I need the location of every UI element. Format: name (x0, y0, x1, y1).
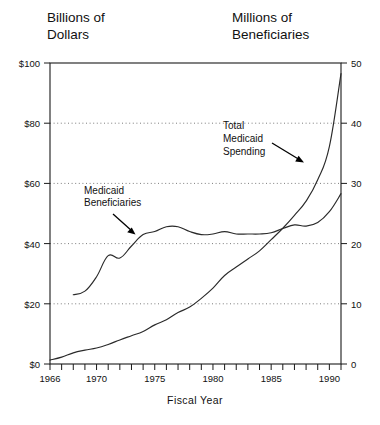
annotation-beneficiaries-line1: Medicaid (84, 185, 124, 196)
right-axis-title-line2: Beneficiaries (232, 27, 310, 42)
chart-canvas: Billions of Dollars Millions of Benefici… (0, 0, 380, 425)
x-label-1985: 1985 (261, 373, 282, 384)
annotation-medicaid-beneficiaries: Medicaid Beneficiaries (84, 185, 141, 235)
y-left-label-80: $80 (24, 118, 40, 129)
y-left-label-60: $60 (24, 178, 40, 189)
x-label-1990: 1990 (319, 373, 340, 384)
annotation-spending-line2: Medicaid (223, 133, 263, 144)
y-right-ticks (341, 63, 347, 364)
y-right-label-20: 20 (351, 239, 362, 250)
left-axis-title-line2: Dollars (47, 27, 89, 42)
x-axis-ticks (50, 364, 341, 370)
gridlines (50, 123, 341, 304)
y-left-label-40: $40 (24, 239, 40, 250)
y-left-label-20: $20 (24, 299, 40, 310)
y-right-label-10: 10 (351, 299, 362, 310)
y-right-label-50: 50 (351, 58, 362, 69)
annotation-beneficiaries-line2: Beneficiaries (84, 197, 141, 208)
x-label-1980: 1980 (202, 373, 223, 384)
series-line-total-medicaid-spending (50, 74, 341, 361)
right-axis-title-line1: Millions of (232, 10, 292, 25)
y-left-label-0: $0 (29, 359, 40, 370)
plot-frame (50, 63, 341, 364)
left-axis-title-line1: Billions of (47, 10, 105, 25)
x-axis-title: Fiscal Year (167, 394, 223, 406)
annotation-spending-line1: Total (223, 120, 244, 131)
y-left-label-100: $100 (19, 58, 40, 69)
medicaid-chart-figure: Billions of Dollars Millions of Benefici… (0, 0, 380, 425)
x-label-1970: 1970 (86, 373, 107, 384)
x-label-1966: 1966 (39, 373, 60, 384)
y-right-label-0: 0 (351, 359, 356, 370)
annotation-beneficiaries-arrow-line (113, 214, 132, 231)
annotation-spending-arrow-head (295, 156, 304, 163)
x-label-1975: 1975 (144, 373, 165, 384)
y-left-ticks (44, 63, 50, 364)
annotation-spending-line3: Spending (223, 146, 265, 157)
annotation-spending-arrow-line (272, 143, 300, 160)
annotation-total-medicaid-spending: Total Medicaid Spending (223, 120, 304, 163)
y-right-label-40: 40 (351, 118, 362, 129)
y-right-label-30: 30 (351, 178, 362, 189)
